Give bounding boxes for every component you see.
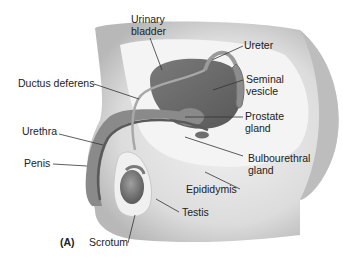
label-urethra: Urethra [22, 126, 57, 138]
bulbourethral-shape [195, 132, 209, 139]
label-bulbourethral-gland: Bulbourethral gland [248, 153, 310, 176]
anatomy-figure: Urinary bladder Ureter Ductus deferens S… [0, 0, 343, 260]
label-ureter: Ureter [244, 40, 273, 52]
label-urinary-bladder: Urinary bladder [131, 14, 166, 37]
label-testis: Testis [182, 207, 209, 219]
label-epididymis: Epididymis [186, 184, 237, 196]
label-prostate-gland: Prostate gland [245, 111, 284, 134]
label-penis: Penis [24, 158, 50, 170]
testis-shape [120, 170, 144, 204]
label-ductus-deferens: Ductus deferens [18, 78, 94, 90]
label-seminal-vesicle: Seminal vesicle [246, 74, 284, 97]
label-scrotum: Scrotum [89, 237, 128, 249]
panel-label: (A) [60, 237, 75, 249]
